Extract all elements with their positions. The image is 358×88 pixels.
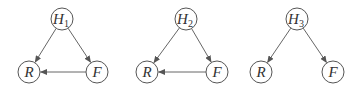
graph-2: H2RF <box>136 8 228 83</box>
edge-h2-to-r <box>154 28 180 63</box>
graphs-layer: H1RFH2RFH3RF <box>18 8 344 83</box>
node-f: F <box>86 61 108 83</box>
node-r: R <box>18 61 40 83</box>
node-label: R <box>23 64 33 80</box>
node-r: R <box>250 61 272 83</box>
node-h1: H1 <box>51 8 73 30</box>
graph-1: H1RF <box>18 8 108 83</box>
edge-h1-to-r <box>35 28 56 62</box>
graph-3: H3RF <box>250 8 344 83</box>
node-label: R <box>141 64 151 80</box>
node-h2: H2 <box>175 8 197 30</box>
node-r: R <box>136 61 158 83</box>
edge-h2-to-f <box>192 28 212 62</box>
node-h3: H3 <box>286 8 308 30</box>
node-label: F <box>327 64 338 80</box>
node-f: F <box>206 61 228 83</box>
node-label: F <box>91 64 102 80</box>
node-label: F <box>211 64 222 80</box>
node-f: F <box>322 61 344 83</box>
edge-h1-to-f <box>68 28 91 62</box>
node-label: R <box>255 64 265 80</box>
edge-h3-to-r <box>267 28 290 62</box>
diagram-canvas: H1RFH2RFH3RF <box>0 0 358 88</box>
edge-h3-to-f <box>303 28 326 62</box>
